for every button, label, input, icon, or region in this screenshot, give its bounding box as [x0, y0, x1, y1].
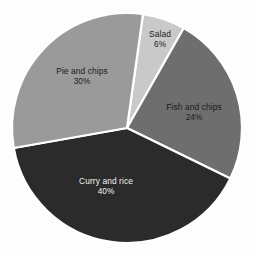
pie-chart: Salad6%Fish and chips24%Curry and rice40… [0, 0, 256, 254]
pie-slice [12, 13, 143, 148]
pie-chart-canvas [0, 0, 256, 254]
pie-slice-group [12, 13, 242, 243]
